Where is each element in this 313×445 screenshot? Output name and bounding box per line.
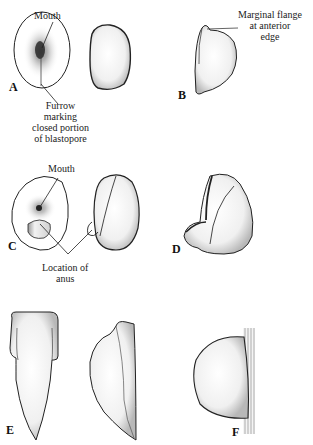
panel-letter-b: B xyxy=(178,89,186,101)
panel-e-lateral-view xyxy=(90,322,136,441)
label-a-furrow: Furrow marking closed portion of blastop… xyxy=(32,100,89,144)
label-a-mouth: Mouth xyxy=(34,10,61,21)
label-c-anus-line-2: anus xyxy=(42,273,88,284)
panel-a-side-view xyxy=(90,25,130,89)
label-a-furrow-line-4: of blastopore xyxy=(32,133,89,144)
panel-letter-d: D xyxy=(172,243,181,255)
label-c-anus: Location of anus xyxy=(42,262,88,284)
panel-f-dome-view xyxy=(194,328,255,434)
panel-letter-c: C xyxy=(8,240,17,252)
panel-letter-e: E xyxy=(6,424,14,436)
label-a-furrow-line-2: marking xyxy=(32,111,89,122)
panel-b-lateral-view xyxy=(195,25,238,94)
label-c-mouth: Mouth xyxy=(48,163,75,174)
label-b-flange: Marginal flange at anterior edge xyxy=(238,9,302,42)
panel-d-view xyxy=(184,174,253,254)
embryo-illustrations xyxy=(0,0,313,445)
label-b-flange-line-3: edge xyxy=(238,31,302,42)
label-b-flange-line-2: at anterior xyxy=(238,20,302,31)
panel-a-oral-view xyxy=(14,12,70,104)
label-a-furrow-line-1: Furrow xyxy=(32,100,89,111)
panel-c-oral-view xyxy=(12,176,68,254)
panel-e-ventral-view xyxy=(10,312,58,440)
label-a-furrow-line-3: closed portion xyxy=(32,122,89,133)
label-c-anus-line-1: Location of xyxy=(42,262,88,273)
panel-letter-a: A xyxy=(9,81,18,93)
label-b-flange-line-1: Marginal flange xyxy=(238,9,302,20)
panel-letter-f: F xyxy=(232,426,239,438)
panel-c-side-view xyxy=(68,175,139,254)
